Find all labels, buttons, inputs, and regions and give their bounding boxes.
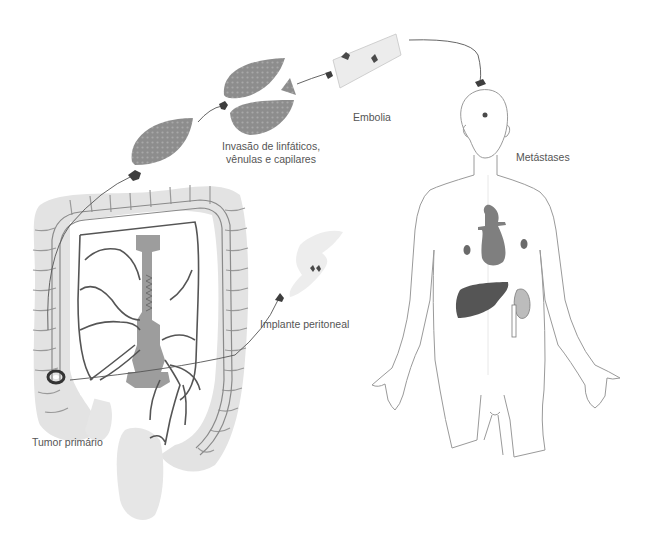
invasion-label: Invasão de linfáticos, vênulas e capilar… [222, 140, 320, 166]
cell-cluster [475, 79, 486, 87]
ureter [512, 305, 516, 337]
metastases-label: Metástases [516, 151, 570, 164]
lung-metastasis-right [521, 239, 528, 249]
cell-cluster [128, 170, 141, 181]
invasion-label-line1: Invasão de linfáticos, [222, 140, 320, 153]
liver [456, 282, 508, 318]
human-body-outline [372, 90, 620, 457]
kidney [514, 289, 530, 318]
heart-mediastinum [478, 205, 506, 266]
primary-tumor-label: Tumor primário [32, 436, 103, 449]
embolism-label: Embolia [353, 111, 391, 124]
diagram-canvas [0, 0, 649, 540]
metastasis-diagram: Invasão de linfáticos, vênulas e capilar… [0, 0, 649, 540]
colon-illustration [33, 185, 248, 520]
rectum [117, 428, 164, 520]
brain-metastasis [483, 113, 488, 118]
lung-metastasis-left [464, 245, 471, 255]
peritoneal-implant-label: Implante peritoneal [260, 318, 349, 331]
peritoneal-implant [290, 231, 343, 297]
tissue-stage-2-invasion [224, 58, 296, 135]
cell-cluster [219, 101, 228, 110]
invasion-label-line2: vênulas e capilares [222, 153, 320, 166]
organs [456, 205, 530, 337]
tissue-stage-1 [132, 118, 193, 165]
cell-cluster [325, 71, 333, 79]
embolism-vessel [333, 34, 401, 88]
arrow-embolism-to-metastases [409, 40, 481, 82]
